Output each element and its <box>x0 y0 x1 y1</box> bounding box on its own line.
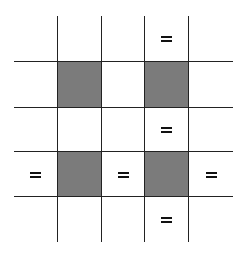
grid-cell-r4-c5-equals <box>189 152 233 197</box>
grid-cell-r1-c2-empty <box>58 16 102 62</box>
grid-cell-r2-c1-empty <box>14 62 58 108</box>
grid-cell-r5-c5-empty <box>189 197 233 242</box>
grid-cell-r2-c3-empty <box>102 62 145 108</box>
grid-cell-r4-c3-equals <box>102 152 145 197</box>
grid-cell-r1-c4-equals <box>145 16 189 62</box>
equals-icon <box>206 172 217 177</box>
grid-cell-r5-c1-empty <box>14 197 58 242</box>
grid-cell-r3-c4-equals <box>145 108 189 152</box>
grid-cell-r2-c4-shaded <box>145 62 189 108</box>
grid-cell-r5-c2-empty <box>58 197 102 242</box>
grid-cell-r4-c4-shaded <box>145 152 189 197</box>
grid-cell-r4-c2-shaded <box>58 152 102 197</box>
grid-cell-r3-c5-empty <box>189 108 233 152</box>
grid-cell-r1-c3-empty <box>102 16 145 62</box>
grid-cell-r1-c1-empty <box>14 16 58 62</box>
grid-cell-r5-c4-equals <box>145 197 189 242</box>
grid-cell-r1-c5-empty <box>189 16 233 62</box>
grid-cell-r2-c2-shaded <box>58 62 102 108</box>
grid-cell-r3-c3-empty <box>102 108 145 152</box>
equals-icon <box>118 172 129 177</box>
equals-icon <box>161 127 172 132</box>
equals-icon <box>30 172 41 177</box>
grid-cell-r3-c2-empty <box>58 108 102 152</box>
grid-cell-r4-c1-equals <box>14 152 58 197</box>
grid-cell-r2-c5-empty <box>189 62 233 108</box>
equals-icon <box>161 217 172 222</box>
grid-cell-r5-c3-empty <box>102 197 145 242</box>
grid-diagram <box>14 16 233 242</box>
grid-cell-r3-c1-empty <box>14 108 58 152</box>
equals-icon <box>161 36 172 41</box>
